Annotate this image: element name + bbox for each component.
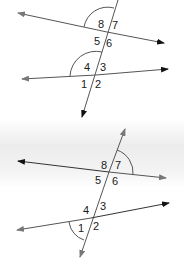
top-label-5: 5 (94, 35, 100, 47)
top-line-1-right (107, 32, 164, 43)
top-label-2: 2 (95, 78, 101, 90)
top-line-2-right (96, 69, 168, 75)
bottom-label-7: 7 (115, 159, 121, 171)
top-label-3: 3 (100, 61, 106, 73)
figure-bottom: 8 7 5 6 4 3 1 2 (17, 129, 169, 257)
bottom-label-4: 4 (83, 204, 89, 216)
top-label-8: 8 (98, 18, 104, 30)
bottom-label-8: 8 (101, 159, 107, 171)
top-label-6: 6 (106, 37, 112, 49)
bottom-label-5: 5 (95, 174, 101, 186)
top-label-7: 7 (112, 19, 118, 31)
angle-diagrams: 8 7 5 6 4 3 1 2 8 7 5 6 4 3 1 2 (0, 0, 184, 278)
bottom-label-3: 3 (100, 200, 106, 212)
top-label-4: 4 (84, 61, 90, 73)
bottom-label-2: 2 (93, 220, 99, 232)
top-label-1: 1 (81, 78, 87, 90)
bottom-label-6: 6 (112, 175, 118, 187)
bottom-line-1 (18, 161, 109, 172)
bottom-label-1: 1 (78, 222, 84, 234)
top-line-1 (18, 13, 107, 32)
figure-top: 8 7 5 6 4 3 1 2 (18, 0, 168, 117)
